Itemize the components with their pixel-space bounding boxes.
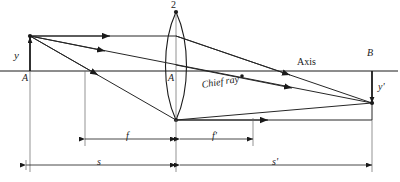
label-image-distance-sprime: s' [272, 157, 278, 167]
label-lens-vertex-A: A [168, 73, 174, 83]
label-axis: Axis [297, 57, 316, 67]
label-object-point-A: A [22, 73, 28, 83]
label-back-focal-fprime: f' [212, 131, 217, 141]
object-tip-node [28, 34, 32, 38]
label-image-height-yprime: y' [378, 82, 385, 92]
chief-ray-axis-node [240, 74, 244, 78]
ray-parallel-refracted-arrow [176, 36, 290, 75]
optics-ray-diagram-figure: y A 2 A Axis B y' Chief ray f f' s s' [0, 0, 400, 182]
chief-ray-arrow-left [30, 36, 105, 51]
ray-marginal-converging [176, 103, 372, 120]
label-object-distance-s: s [97, 157, 101, 167]
ray-focal-incident-arrow [30, 36, 98, 75]
image-tip-node [370, 101, 374, 105]
ray-diagram-canvas [0, 0, 400, 182]
label-lens-top-2: 2 [171, 0, 176, 10]
label-front-focal-f: f [126, 131, 129, 141]
label-object-height-y: y [14, 50, 19, 61]
lens-top-vertex-dot [174, 10, 178, 14]
label-image-point-B: B [367, 48, 373, 58]
